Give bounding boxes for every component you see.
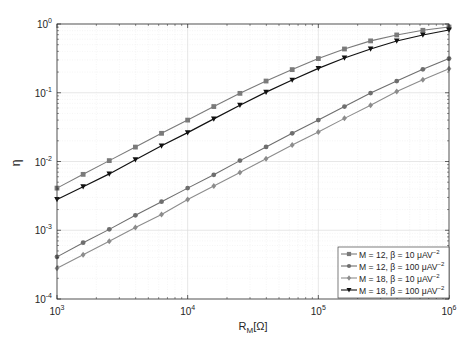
chart-figure: 103104105106 10010-110-210-310-4 RM[Ω] η… bbox=[0, 0, 475, 346]
svg-text:M = 18, β = 10 μAV−2: M = 18, β = 10 μAV−2 bbox=[359, 273, 440, 284]
y-tick-label: 10-4 bbox=[35, 292, 52, 305]
x-tick-label: 103 bbox=[49, 304, 64, 317]
series-line-3 bbox=[55, 66, 452, 272]
y-tick-label: 10-3 bbox=[35, 223, 52, 236]
y-tick-label: 100 bbox=[37, 17, 52, 30]
svg-text:M = 12, β = 100 μAV−2: M = 12, β = 100 μAV−2 bbox=[359, 261, 445, 272]
legend: M = 12, β = 10 μAV−2M = 12, β = 100 μAV−… bbox=[338, 247, 449, 298]
x-tick-label: 104 bbox=[180, 304, 195, 317]
series-layer bbox=[54, 25, 452, 272]
svg-text:M = 18, β = 100 μAV−2: M = 18, β = 100 μAV−2 bbox=[359, 285, 445, 296]
series-line-4 bbox=[54, 28, 452, 203]
x-tick-label: 105 bbox=[311, 304, 326, 317]
y-tick-label: 10-2 bbox=[35, 155, 52, 168]
y-axis-label: η bbox=[9, 160, 23, 167]
x-axis-label: RM[Ω] bbox=[239, 320, 268, 335]
svg-text:M = 12, β = 10 μAV−2: M = 12, β = 10 μAV−2 bbox=[359, 249, 440, 260]
x-tick-label: 106 bbox=[441, 304, 456, 317]
x-axis-tick-labels: 103104105106 bbox=[49, 304, 456, 317]
y-axis-tick-labels: 10010-110-210-310-4 bbox=[35, 17, 52, 305]
y-tick-label: 10-1 bbox=[35, 86, 52, 99]
